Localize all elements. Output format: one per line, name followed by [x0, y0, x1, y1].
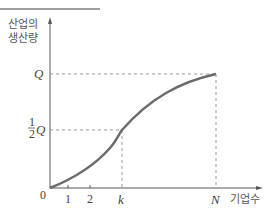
x-axis-label: 기업수	[230, 193, 260, 206]
y-tick-half-denominator: 2	[29, 127, 35, 141]
x-tick-1: 1	[65, 192, 71, 206]
y-axis-label-line1: 산업의	[8, 18, 38, 31]
y-tick-Q: Q	[34, 66, 44, 81]
y-axis-label-line2: 생산량	[8, 32, 38, 45]
x-tick-k: k	[118, 192, 124, 207]
output-vs-firms-diagram: 산업의 생산량 Q 1 2 Q 0 1 2 k N 기업수	[0, 0, 278, 219]
origin-label: 0	[40, 188, 46, 202]
x-axis-arrow-icon	[256, 186, 263, 190]
y-axis-arrow-icon	[48, 17, 52, 24]
output-curve	[50, 74, 216, 188]
x-tick-N: N	[210, 192, 221, 207]
x-tick-2: 2	[87, 192, 93, 206]
y-tick-half-Q: Q	[36, 122, 46, 137]
